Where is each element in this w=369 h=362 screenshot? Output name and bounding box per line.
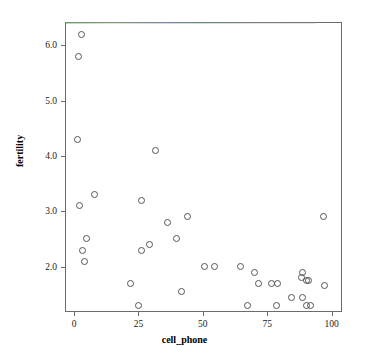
data-point (74, 136, 81, 143)
x-tick-label: 0 (72, 319, 77, 329)
x-tick-label: 100 (325, 319, 339, 329)
data-point (274, 280, 281, 287)
data-point (305, 277, 312, 284)
data-point (273, 302, 280, 309)
y-tick-label: 5.0 (33, 96, 57, 106)
x-tick-label: 25 (134, 319, 144, 329)
data-point (138, 247, 145, 254)
data-point (76, 202, 83, 209)
y-tick-label: 3.0 (33, 206, 57, 216)
x-tick-label: 75 (263, 319, 273, 329)
data-point (75, 53, 82, 60)
data-point (78, 31, 85, 38)
y-tick-mark (61, 101, 65, 102)
data-point (299, 294, 306, 301)
data-point (255, 280, 262, 287)
data-point (79, 247, 86, 254)
y-tick-mark (61, 156, 65, 157)
x-axis-title: cell_phone (0, 334, 369, 345)
data-point (81, 258, 88, 265)
data-point (251, 269, 258, 276)
data-point (288, 294, 295, 301)
data-point (146, 241, 153, 248)
x-tick-mark (267, 312, 268, 316)
data-point (307, 302, 314, 309)
x-tick-mark (332, 312, 333, 316)
x-tick-mark (74, 312, 75, 316)
data-point (178, 288, 185, 295)
y-tick-mark (61, 211, 65, 212)
data-point (138, 197, 145, 204)
x-tick-mark (203, 312, 204, 316)
y-tick-mark (61, 267, 65, 268)
x-tick-mark (138, 312, 139, 316)
y-tick-label: 2.0 (33, 262, 57, 272)
scatter-plot-figure: 0255075100 2.03.04.05.06.0 cell_phone fe… (0, 0, 369, 362)
data-point (135, 302, 142, 309)
y-tick-mark (61, 45, 65, 46)
data-point (127, 280, 134, 287)
y-axis-title: fertility (14, 135, 25, 167)
data-point (91, 191, 98, 198)
y-tick-label: 6.0 (33, 40, 57, 50)
data-point (164, 219, 171, 226)
y-tick-label: 4.0 (33, 151, 57, 161)
x-tick-label: 50 (198, 319, 208, 329)
